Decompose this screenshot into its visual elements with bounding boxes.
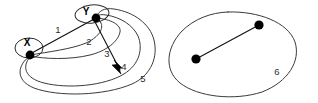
edge-label-3: 3: [104, 48, 109, 59]
node-x-label: X: [24, 37, 31, 48]
region-6-node-right[interactable]: [254, 20, 263, 29]
region-label-6: 6: [274, 66, 279, 77]
edge-5-path: [20, 9, 155, 94]
region-6-outline: [169, 12, 296, 97]
node-y-label: Y: [83, 6, 90, 17]
region-6-node-left[interactable]: [191, 54, 200, 63]
node-y-ring: [74, 3, 110, 24]
edge-label-5: 5: [140, 73, 145, 84]
node-y-dot: [92, 14, 101, 23]
edge-label-4: 4: [121, 61, 126, 72]
node-y[interactable]: Y: [74, 3, 110, 24]
figure-canvas: X Y 1 2 3 4 5 6: [0, 0, 318, 103]
graph-diagram: X Y 1 2 3 4 5 6: [0, 0, 318, 103]
edge-label-2: 2: [86, 36, 91, 47]
right-graph-group: 6: [169, 12, 296, 97]
left-graph-group: X Y 1 2 3 4 5: [15, 3, 155, 94]
edge-6-path: [196, 25, 259, 59]
node-x-dot: [26, 51, 35, 60]
node-x[interactable]: X: [15, 37, 43, 59]
edge-label-1: 1: [55, 24, 60, 35]
